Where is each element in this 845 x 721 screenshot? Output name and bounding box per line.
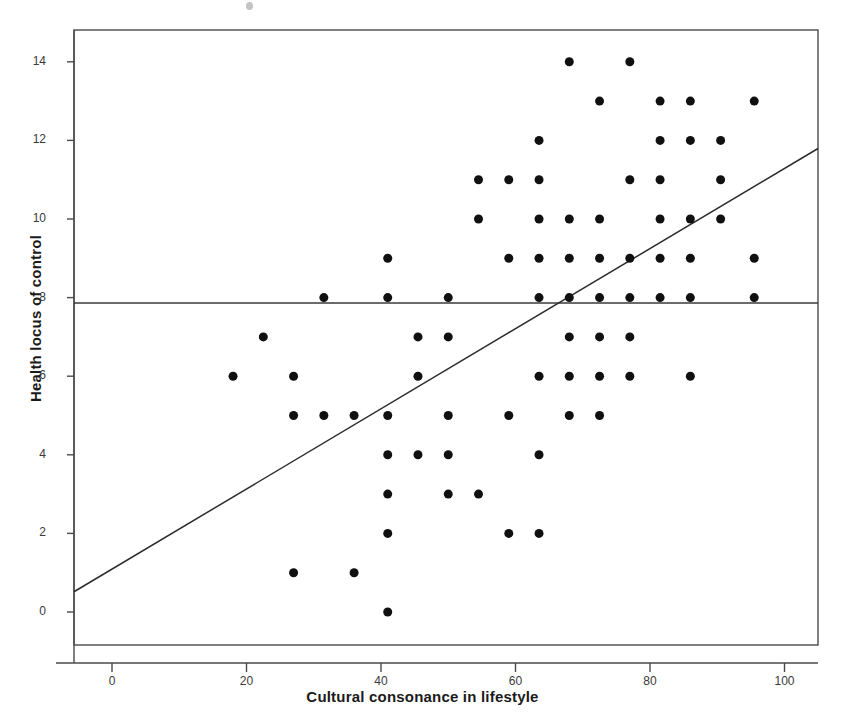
x-tick-label: 40 bbox=[361, 674, 401, 688]
data-point bbox=[565, 254, 574, 263]
data-point bbox=[350, 411, 359, 420]
y-axis-label-container: Health locus of control bbox=[0, 0, 34, 645]
x-tick-label: 60 bbox=[496, 674, 536, 688]
data-point bbox=[565, 57, 574, 66]
x-axis-label: Cultural consonance in lifestyle bbox=[0, 688, 845, 705]
data-point bbox=[444, 411, 453, 420]
data-point bbox=[383, 254, 392, 263]
data-point bbox=[686, 372, 695, 381]
data-point bbox=[595, 215, 604, 224]
data-point bbox=[504, 529, 513, 538]
y-tick-label: 6 bbox=[12, 368, 46, 382]
data-point bbox=[595, 97, 604, 106]
scatter-plot-figure: Health locus of control Cultural consona… bbox=[0, 0, 845, 721]
data-point bbox=[413, 332, 422, 341]
data-point bbox=[565, 411, 574, 420]
data-point bbox=[229, 372, 238, 381]
data-point bbox=[595, 254, 604, 263]
data-point bbox=[444, 450, 453, 459]
data-point bbox=[504, 411, 513, 420]
data-point bbox=[289, 568, 298, 577]
data-point bbox=[595, 293, 604, 302]
data-point bbox=[716, 175, 725, 184]
data-point bbox=[535, 529, 544, 538]
data-point bbox=[595, 332, 604, 341]
data-point bbox=[444, 490, 453, 499]
data-point bbox=[474, 215, 483, 224]
data-point bbox=[565, 293, 574, 302]
data-point bbox=[625, 175, 634, 184]
data-point bbox=[535, 450, 544, 459]
data-point bbox=[535, 215, 544, 224]
data-point bbox=[350, 568, 359, 577]
data-point bbox=[686, 136, 695, 145]
data-point bbox=[656, 254, 665, 263]
data-point bbox=[319, 293, 328, 302]
data-point bbox=[474, 175, 483, 184]
data-point bbox=[656, 136, 665, 145]
data-point bbox=[750, 97, 759, 106]
y-tick-label: 12 bbox=[12, 132, 46, 146]
data-point bbox=[750, 254, 759, 263]
data-point bbox=[259, 332, 268, 341]
data-point bbox=[716, 136, 725, 145]
data-point bbox=[535, 254, 544, 263]
data-point bbox=[319, 411, 328, 420]
data-point bbox=[444, 332, 453, 341]
x-tick-label: 20 bbox=[227, 674, 267, 688]
data-point bbox=[656, 175, 665, 184]
scan-artifact-speck bbox=[246, 2, 253, 10]
data-point bbox=[504, 254, 513, 263]
data-point bbox=[750, 293, 759, 302]
data-point bbox=[535, 136, 544, 145]
data-point bbox=[686, 293, 695, 302]
x-axis-ticks bbox=[112, 663, 785, 672]
data-point bbox=[625, 332, 634, 341]
data-point bbox=[686, 97, 695, 106]
data-point bbox=[504, 175, 513, 184]
data-point bbox=[383, 450, 392, 459]
y-tick-label: 14 bbox=[12, 54, 46, 68]
y-axis-ticks bbox=[67, 62, 74, 612]
data-point bbox=[565, 372, 574, 381]
data-point bbox=[656, 97, 665, 106]
data-point bbox=[686, 215, 695, 224]
data-point bbox=[535, 175, 544, 184]
data-point bbox=[625, 254, 634, 263]
data-point bbox=[289, 372, 298, 381]
data-point bbox=[383, 529, 392, 538]
data-point bbox=[595, 411, 604, 420]
x-tick-label: 100 bbox=[765, 674, 805, 688]
data-point bbox=[383, 293, 392, 302]
data-point bbox=[289, 411, 298, 420]
data-point bbox=[716, 215, 725, 224]
y-tick-label: 0 bbox=[12, 604, 46, 618]
data-point bbox=[565, 332, 574, 341]
data-point bbox=[565, 215, 574, 224]
data-point bbox=[625, 57, 634, 66]
data-point bbox=[535, 372, 544, 381]
data-point bbox=[686, 254, 695, 263]
data-point bbox=[595, 372, 604, 381]
data-point bbox=[413, 372, 422, 381]
y-tick-label: 10 bbox=[12, 211, 46, 225]
plot-canvas bbox=[0, 0, 845, 721]
data-point bbox=[413, 450, 422, 459]
data-point bbox=[535, 293, 544, 302]
y-tick-label: 4 bbox=[12, 447, 46, 461]
data-point bbox=[656, 215, 665, 224]
data-point bbox=[444, 293, 453, 302]
data-point bbox=[625, 293, 634, 302]
y-tick-label: 2 bbox=[12, 525, 46, 539]
data-point bbox=[383, 411, 392, 420]
y-tick-label: 8 bbox=[12, 290, 46, 304]
data-point bbox=[656, 293, 665, 302]
data-point bbox=[383, 490, 392, 499]
data-point bbox=[625, 372, 634, 381]
x-tick-label: 80 bbox=[630, 674, 670, 688]
x-tick-label: 0 bbox=[92, 674, 132, 688]
data-point bbox=[474, 490, 483, 499]
data-point bbox=[383, 608, 392, 617]
